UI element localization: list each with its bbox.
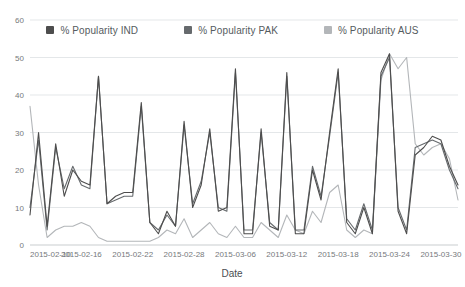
y-axis-tick-label: 60 bbox=[15, 16, 24, 25]
x-axis-tick-label: 2015-03-30 bbox=[420, 250, 461, 259]
x-axis-tick-label: 2015-02-16 bbox=[61, 250, 102, 259]
x-axis-tick-label: 2015-02-28 bbox=[164, 250, 205, 259]
x-axis-tick-labels: 2015-02-102015-02-162015-02-222015-02-28… bbox=[30, 250, 462, 259]
y-axis-tick-label: 50 bbox=[15, 54, 24, 63]
series-line bbox=[30, 58, 458, 231]
popularity-line-chart: % Popularity IND % Popularity PAK % Popu… bbox=[0, 0, 465, 287]
y-axis-tick-label: 30 bbox=[15, 129, 24, 138]
x-axis-tick-label: 2015-03-12 bbox=[266, 250, 307, 259]
y-axis-tick-labels: 0102030405060 bbox=[15, 16, 24, 250]
y-axis-tick-label: 40 bbox=[15, 91, 24, 100]
plot-area: 0102030405060 2015-02-102015-02-162015-0… bbox=[0, 0, 465, 287]
x-axis-tick-label: 2015-03-24 bbox=[369, 250, 410, 259]
x-axis-tick-label: 2015-03-18 bbox=[318, 250, 359, 259]
y-axis-tick-label: 20 bbox=[15, 166, 24, 175]
x-axis-tick-label: 2015-03-06 bbox=[215, 250, 256, 259]
x-axis-tick-label: 2015-02-22 bbox=[112, 250, 153, 259]
series-line bbox=[30, 54, 458, 242]
y-axis-tick-label: 0 bbox=[20, 241, 25, 250]
y-axis-tick-label: 10 bbox=[15, 204, 24, 213]
x-axis-title: Date bbox=[221, 268, 243, 279]
series-lines bbox=[30, 54, 458, 242]
series-line bbox=[30, 54, 458, 234]
